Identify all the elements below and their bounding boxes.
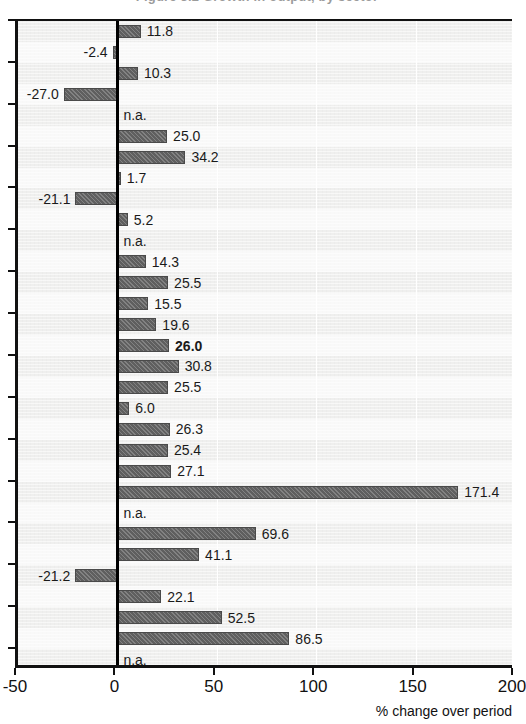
bar bbox=[117, 67, 137, 80]
bar-value-label: -21.2 bbox=[18, 569, 70, 583]
bar-value-label: 27.1 bbox=[177, 464, 204, 478]
bar-value-label: 25.5 bbox=[174, 276, 201, 290]
x-axis-tick-label: 200 bbox=[498, 677, 526, 697]
gridline bbox=[416, 21, 417, 665]
x-axis-caption: % change over period bbox=[376, 703, 512, 719]
row-band bbox=[18, 461, 512, 482]
x-axis-tick-label: -50 bbox=[3, 677, 28, 697]
y-axis-tick bbox=[8, 186, 16, 188]
bar-value-label: 34.2 bbox=[191, 150, 218, 164]
bar bbox=[117, 548, 199, 561]
bar bbox=[117, 423, 169, 436]
row-band bbox=[18, 293, 512, 314]
bar-value-label: -2.4 bbox=[18, 45, 108, 59]
bar bbox=[75, 569, 117, 582]
bar-value-label: 10.3 bbox=[144, 66, 171, 80]
gridline bbox=[316, 21, 317, 665]
bar bbox=[64, 88, 118, 101]
bar bbox=[117, 465, 171, 478]
bar-value-label: 15.5 bbox=[154, 297, 181, 311]
y-axis-tick bbox=[8, 312, 16, 314]
row-band bbox=[18, 503, 512, 524]
bar bbox=[117, 360, 178, 373]
y-axis-tick bbox=[8, 563, 16, 565]
y-axis-tick bbox=[8, 145, 16, 147]
y-axis-tick bbox=[8, 228, 16, 230]
bar bbox=[117, 590, 161, 603]
bar-value-label: n.a. bbox=[123, 653, 146, 667]
x-axis-tick bbox=[412, 668, 414, 675]
y-axis-tick bbox=[8, 61, 16, 63]
chart-title-clipped: Figure 3.2 Growth in output, by sector bbox=[0, 0, 514, 11]
y-axis-tick bbox=[8, 647, 16, 649]
row-band bbox=[18, 335, 512, 356]
bar-value-label: 25.4 bbox=[174, 443, 201, 457]
bar-value-label: 22.1 bbox=[167, 590, 194, 604]
bar bbox=[75, 192, 117, 205]
bar bbox=[117, 130, 167, 143]
bar-value-label: 52.5 bbox=[228, 611, 255, 625]
row-band bbox=[18, 251, 512, 272]
y-axis-tick bbox=[8, 354, 16, 356]
bar bbox=[117, 527, 255, 540]
bar bbox=[117, 255, 145, 268]
bar-value-label: 1.7 bbox=[127, 171, 146, 185]
bar bbox=[117, 151, 185, 164]
y-axis-tick bbox=[8, 270, 16, 272]
bar bbox=[117, 276, 168, 289]
bar bbox=[117, 318, 156, 331]
bar bbox=[117, 632, 289, 645]
bar-value-label: 11.8 bbox=[147, 24, 173, 38]
x-axis-tick bbox=[312, 668, 314, 675]
bar-value-label: 26.0 bbox=[175, 339, 202, 353]
row-band bbox=[18, 209, 512, 230]
bar-value-label: -21.1 bbox=[18, 192, 70, 206]
bar-value-label: 25.5 bbox=[174, 380, 201, 394]
bar bbox=[117, 486, 458, 499]
bar-value-label: 171.4 bbox=[464, 485, 499, 499]
x-axis-tick-label: 150 bbox=[398, 677, 426, 697]
x-axis-tick bbox=[213, 668, 215, 675]
y-axis-tick bbox=[8, 605, 16, 607]
bar-value-label: 25.0 bbox=[173, 129, 200, 143]
bar bbox=[117, 611, 221, 624]
row-band bbox=[18, 377, 512, 398]
y-axis-tick bbox=[8, 438, 16, 440]
gridline bbox=[217, 21, 218, 665]
row-band bbox=[18, 544, 512, 565]
bar-value-label: 14.3 bbox=[152, 255, 179, 269]
bar-value-label: 5.2 bbox=[134, 213, 153, 227]
row-band bbox=[18, 419, 512, 440]
x-axis-tick-label: 50 bbox=[204, 677, 223, 697]
bar bbox=[117, 381, 168, 394]
y-axis-tick bbox=[8, 396, 16, 398]
row-band bbox=[18, 168, 512, 189]
bar-value-label: 86.5 bbox=[295, 632, 322, 646]
bar-value-label: 19.6 bbox=[162, 318, 189, 332]
bar-value-label: -27.0 bbox=[18, 87, 59, 101]
x-axis-tick bbox=[511, 668, 513, 675]
bar-value-label: 30.8 bbox=[185, 359, 212, 373]
chart-title-text: Figure 3.2 Growth in output, by sector bbox=[0, 0, 514, 2]
bar-value-label: n.a. bbox=[123, 234, 146, 248]
plot-area: 11.8-2.410.3-27.0n.a.25.034.21.7-21.15.2… bbox=[15, 19, 512, 668]
bar bbox=[117, 444, 167, 457]
bar-value-label: n.a. bbox=[123, 108, 146, 122]
x-axis-tick bbox=[14, 668, 16, 675]
y-axis-tick bbox=[8, 103, 16, 105]
x-axis-tick-label: 0 bbox=[110, 677, 119, 697]
y-axis-tick bbox=[8, 19, 16, 21]
bar bbox=[117, 25, 140, 38]
bar-value-label: 41.1 bbox=[205, 548, 232, 562]
row-band bbox=[18, 586, 512, 607]
bar-value-label: 69.6 bbox=[262, 527, 289, 541]
row-band bbox=[18, 126, 512, 147]
x-axis-tick-label: 100 bbox=[299, 677, 327, 697]
bar-value-label: 6.0 bbox=[135, 401, 154, 415]
bar-value-label: 26.3 bbox=[176, 422, 203, 436]
y-axis-tick bbox=[8, 480, 16, 482]
x-axis-tick bbox=[113, 668, 115, 675]
zero-axis-line bbox=[116, 21, 119, 665]
bar-value-label: n.a. bbox=[123, 506, 146, 520]
bar bbox=[117, 339, 169, 352]
